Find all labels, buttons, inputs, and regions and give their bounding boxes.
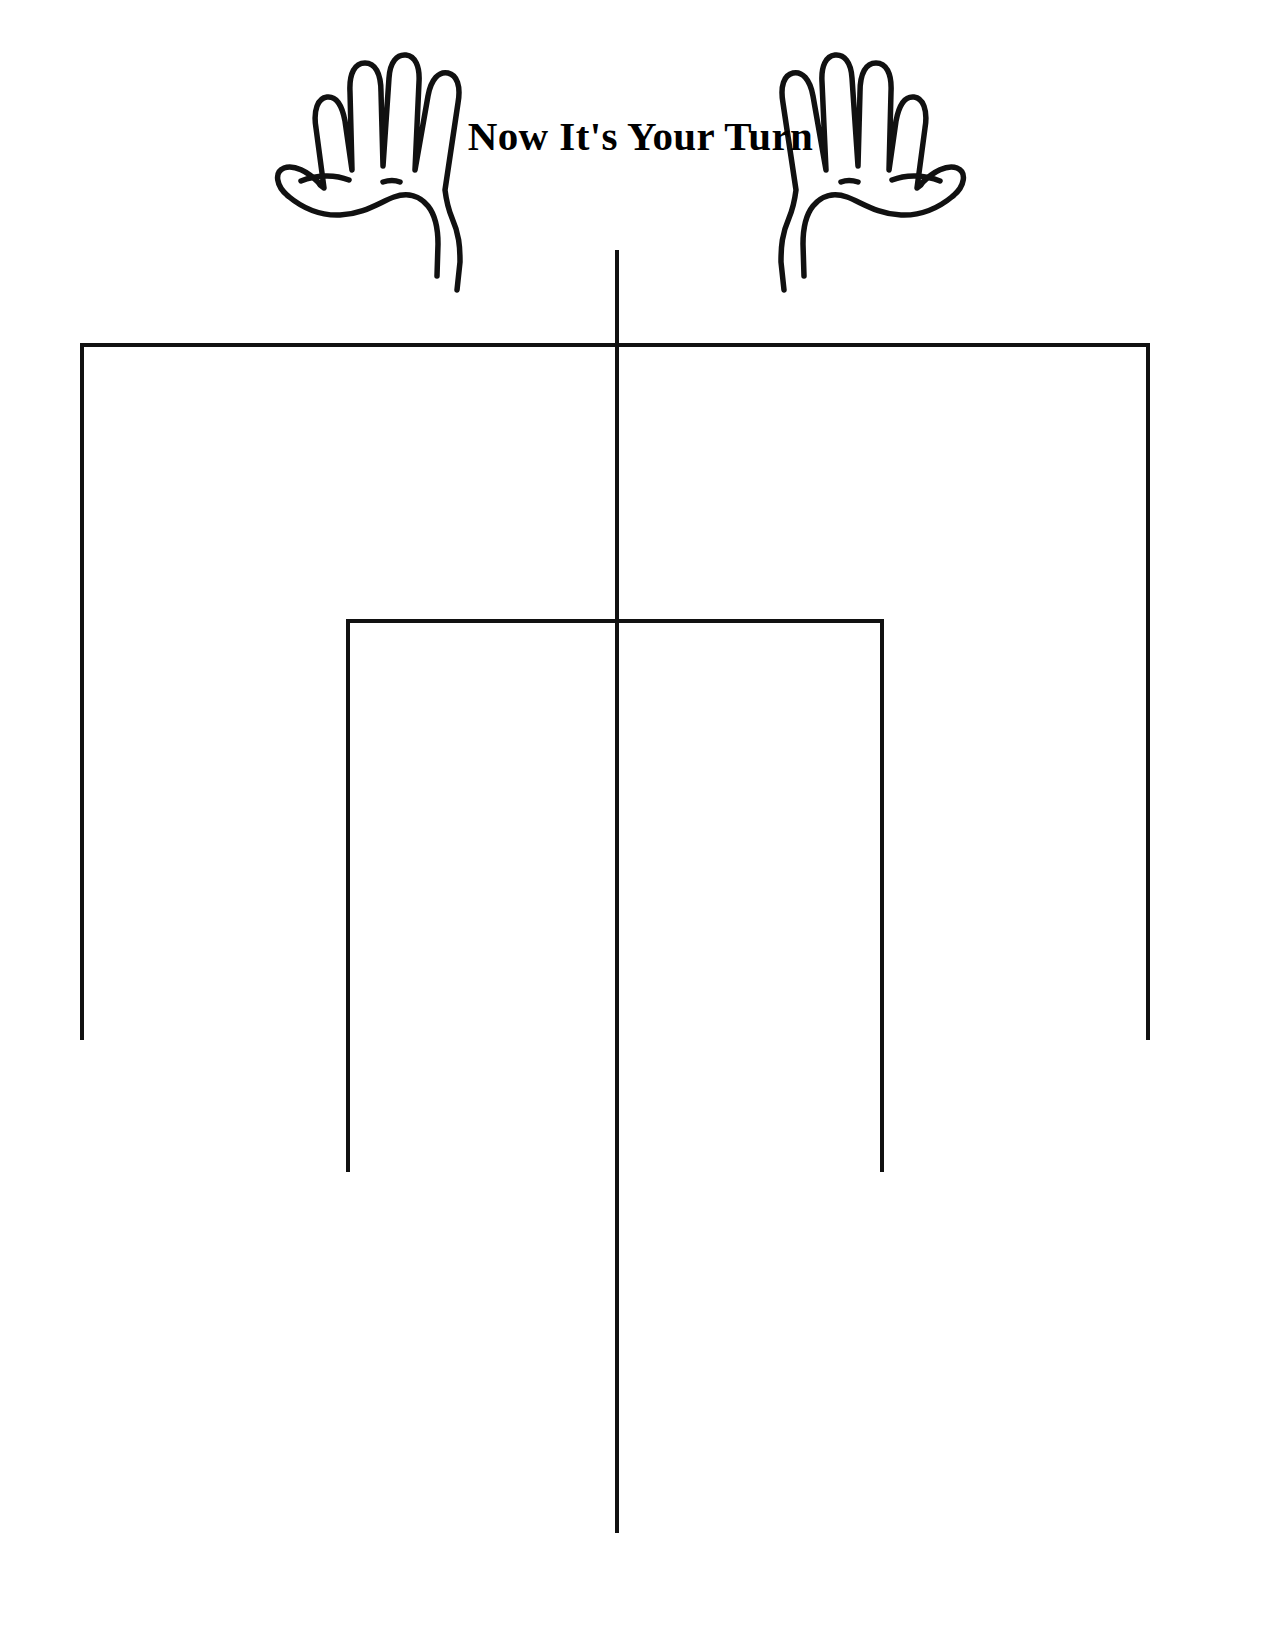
organizer-lines [80, 250, 1150, 1533]
page-title: Now It's Your Turn [0, 112, 1281, 160]
worksheet-page: Now It's Your Turn [0, 0, 1281, 1628]
worksheet-canvas [0, 0, 1281, 1628]
open-hand-left-icon [278, 55, 460, 290]
open-hand-right-icon [781, 55, 963, 290]
